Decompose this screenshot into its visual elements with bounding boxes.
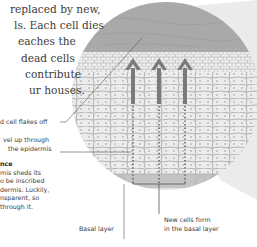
sidebar-line: o be inscribed [0,177,49,186]
label-travel-line2: the epidermis [8,145,51,153]
sidebar-line: nsparent, so [0,194,49,203]
label-basal-layer: Basal layer [79,225,114,233]
sidebar-box: nce mis sheds its o be inscribed dermis.… [0,160,49,212]
label-travel-line1: vel up through [3,136,49,144]
body-line: contribute [0,66,104,82]
label-flakes-off: d cell flakes off [0,118,47,126]
body-paragraph: replaced by new, ls. Each cell dies each… [0,1,104,98]
body-line: ur houses. [0,82,104,98]
body-line: ls. Each cell dies [0,17,104,33]
label-new-cells-line2: in the basal layer [164,225,219,233]
sidebar-heading: nce [0,160,49,169]
sidebar-line: through it. [0,203,49,212]
body-line: dead cells [0,50,104,66]
sidebar-line: dermis. Luckily, [0,186,49,195]
label-new-cells-line1: New cells form [164,216,211,224]
body-line: replaced by new, [0,1,104,17]
sidebar-line: mis sheds its [0,169,49,178]
body-line: eaches the [0,33,104,49]
